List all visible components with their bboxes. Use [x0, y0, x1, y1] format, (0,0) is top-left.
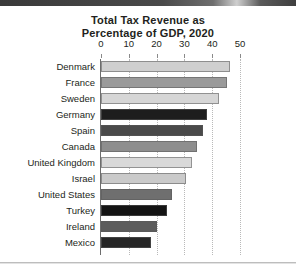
chart-figure: Total Tax Revenue as Percentage of GDP, … — [0, 6, 296, 273]
value-axis-tick-label: 20 — [151, 38, 162, 49]
category-label: Ireland — [66, 220, 95, 233]
bar-row[interactable] — [101, 59, 240, 75]
bar[interactable] — [101, 125, 203, 136]
bar[interactable] — [101, 221, 157, 232]
category-label: Canada — [62, 140, 95, 153]
footer-divider-shadow — [0, 263, 296, 264]
category-label: Germany — [56, 108, 95, 121]
bar[interactable] — [101, 77, 227, 88]
tick-0 — [101, 54, 102, 58]
bar-row[interactable] — [101, 155, 240, 171]
category-label: Sweden — [61, 92, 95, 105]
bar[interactable] — [101, 205, 167, 216]
bar-row[interactable] — [101, 75, 240, 91]
chart-title: Total Tax Revenue as Percentage of GDP, … — [0, 14, 296, 40]
bar-row[interactable] — [101, 139, 240, 155]
bar-row[interactable] — [101, 91, 240, 107]
bar[interactable] — [101, 157, 192, 168]
bar-row[interactable] — [101, 187, 240, 203]
bar-row[interactable] — [101, 107, 240, 123]
bar[interactable] — [101, 93, 219, 104]
bar[interactable] — [101, 173, 186, 184]
plot-area: 01020304050 — [101, 59, 240, 255]
bar[interactable] — [101, 61, 230, 72]
tick-40 — [212, 54, 213, 58]
bar[interactable] — [101, 141, 197, 152]
tick-50 — [240, 54, 241, 58]
bar-row[interactable] — [101, 123, 240, 139]
category-label: Turkey — [66, 204, 95, 217]
category-label: Spain — [71, 124, 95, 137]
value-axis-tick-label: 40 — [207, 38, 218, 49]
category-label: Denmark — [56, 60, 95, 73]
value-axis-tick-label: 0 — [98, 38, 103, 49]
value-axis-tick-label: 30 — [179, 38, 190, 49]
bar-row[interactable] — [101, 171, 240, 187]
chart-title-line-1: Total Tax Revenue as — [0, 14, 296, 27]
category-label: Mexico — [65, 236, 95, 249]
bar-row[interactable] — [101, 219, 240, 235]
bar[interactable] — [101, 189, 172, 200]
category-label: United States — [38, 188, 95, 201]
value-axis-tick-label: 10 — [124, 38, 135, 49]
category-label: United Kingdom — [27, 156, 95, 169]
tick-20 — [157, 54, 158, 58]
bar[interactable] — [101, 237, 151, 248]
category-label: France — [65, 76, 95, 89]
tick-30 — [184, 54, 185, 58]
bar-row[interactable] — [101, 235, 240, 251]
category-label: Israel — [72, 172, 95, 185]
bar[interactable] — [101, 109, 207, 120]
bar-row[interactable] — [101, 203, 240, 219]
value-axis-tick-label: 50 — [235, 38, 246, 49]
gridline-50 — [240, 59, 241, 255]
category-axis-labels: DenmarkFranceSwedenGermanySpainCanadaUni… — [0, 59, 101, 255]
chart-title-line-2: Percentage of GDP, 2020 — [0, 27, 296, 40]
tick-10 — [129, 54, 130, 58]
